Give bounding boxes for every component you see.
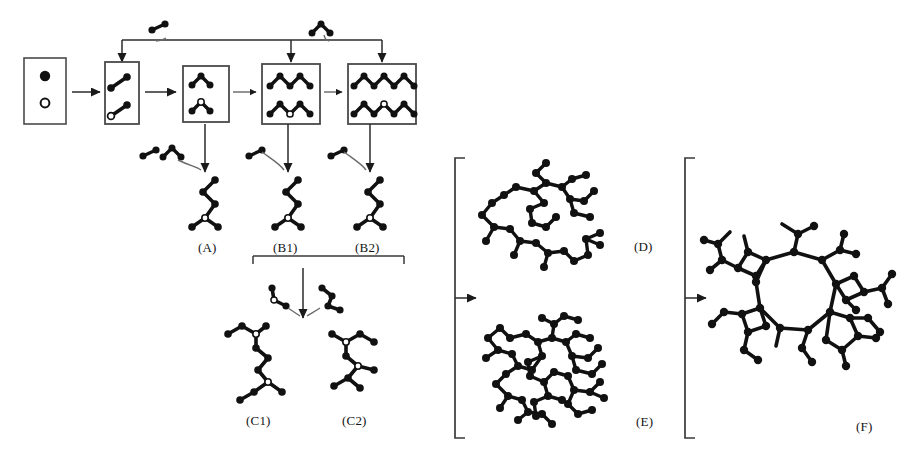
structure-A: [188, 176, 222, 231]
label-D: (D): [634, 239, 653, 255]
label-E: (E): [636, 414, 653, 430]
growth-rail: [122, 40, 382, 62]
structure-C1: [224, 322, 286, 404]
box-trimers: [183, 66, 229, 122]
feed-dimer-B2: [327, 146, 366, 170]
label-C1: (C1): [246, 413, 271, 429]
figure-canvas: (A) (B1) (B2) (C1) (C2) (D) (E) (F): [0, 0, 915, 462]
structure-B1: [271, 176, 305, 231]
bracket-B-group: [253, 256, 404, 264]
dark-atom-icon: [40, 71, 50, 81]
feed-dimer-C-left: [268, 284, 300, 316]
cluster-D: [478, 159, 604, 271]
structure-B2: [353, 176, 387, 231]
box-pentamers: [262, 64, 320, 124]
feed-dimer-top: [148, 20, 168, 41]
label-C2: (C2): [342, 413, 367, 429]
structure-C2: [328, 330, 378, 392]
label-B2: (B2): [355, 240, 380, 256]
box-dimers: [105, 62, 139, 124]
label-F: (F): [856, 419, 873, 435]
box-heptamers: [348, 64, 418, 124]
label-A: (A): [198, 240, 217, 256]
species-key-box: [24, 58, 66, 124]
feed-trimer-top: [309, 21, 334, 42]
open-atom-icon: [41, 99, 50, 108]
feed-dimer-B1: [245, 146, 284, 170]
label-B1: (B1): [273, 240, 298, 256]
diagram-vector-layer: [0, 0, 915, 462]
cluster-F: [700, 222, 896, 370]
cluster-E: [482, 312, 608, 428]
feed-dimer-C-right: [307, 284, 344, 316]
feed-dimer-A: [139, 145, 201, 171]
